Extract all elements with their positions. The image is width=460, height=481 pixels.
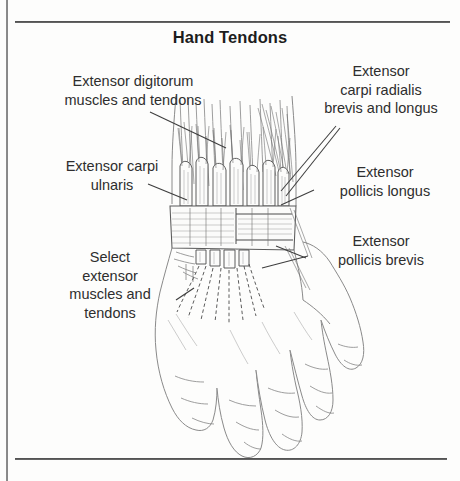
label-extensor-pollicis-brevis: Extensor pollicis brevis	[310, 232, 452, 269]
label-extensor-digitorum: Extensor digitorum muscles and tendons	[38, 72, 228, 109]
label-select-extensor-muscles-and-tendons: Select extensor muscles and tendons	[48, 248, 172, 322]
page-margin-rule	[6, 0, 8, 481]
label-extensor-pollicis-longus: Extensor pollicis longus	[318, 163, 452, 200]
label-extensor-carpi-ulnaris: Extensor carpi ulnaris	[38, 157, 186, 194]
page-title: Hand Tendons	[0, 28, 460, 47]
page-rule-bottom	[15, 458, 447, 460]
textbook-page: Hand Tendons	[0, 0, 460, 481]
label-extensor-carpi-radialis: Extensor carpi radialis brevis and longu…	[306, 62, 456, 118]
title-rule-top	[15, 21, 450, 23]
